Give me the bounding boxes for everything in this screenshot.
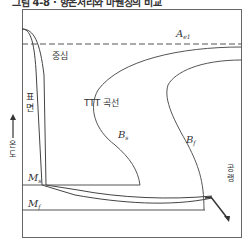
x-axis-label: 공랭 [225,164,233,184]
bs-label: Bs [118,130,128,141]
diagram-canvas [0,0,251,251]
bf-curve [167,60,242,210]
ae1-label: Ae1 [176,29,191,40]
bs-curve [93,47,242,185]
center-label: 중심 [52,52,68,61]
y-axis-label: 온도 [7,140,15,160]
center-cooling-curve [22,29,212,198]
quench-arrow-head [224,216,230,222]
up-arrow-icon [10,114,16,120]
ms-label: Ms [28,173,41,184]
ttt-curve-label: TTT 곡선 [84,99,119,108]
bf-label: Bf [186,135,196,146]
surface-label: 표면 [24,92,33,114]
mf-label: Mf [28,199,40,210]
